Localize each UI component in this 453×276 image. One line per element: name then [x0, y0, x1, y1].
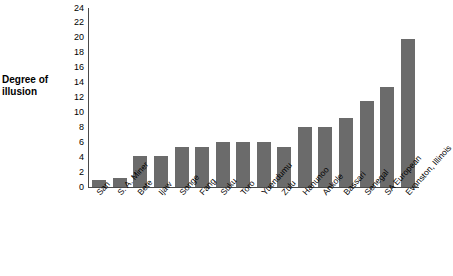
bar-slot [110, 8, 131, 187]
bar-slot [254, 8, 275, 187]
y-axis-tick-label: 16 [60, 63, 84, 72]
y-axis-tick-labels: 242220181614121086420 [58, 0, 84, 276]
bar-slot [171, 8, 192, 187]
y-axis-tick-label: 10 [60, 108, 84, 117]
y-axis-title-line-1: Degree of [2, 74, 62, 86]
y-axis-tick-label: 24 [60, 4, 84, 13]
y-axis-tick-label: 6 [60, 138, 84, 147]
bar-slot [295, 8, 316, 187]
bar-slot [192, 8, 213, 187]
y-axis-tick-label: 4 [60, 153, 84, 162]
y-axis-tick-label: 20 [60, 33, 84, 42]
y-axis-tick-label: 0 [60, 183, 84, 192]
bar-slot [315, 8, 336, 187]
bar-slot [274, 8, 295, 187]
bar-slot [130, 8, 151, 187]
y-axis-tick-label: 12 [60, 93, 84, 102]
bar-slot [151, 8, 172, 187]
y-axis-tick-label: 22 [60, 18, 84, 27]
bar-slot [212, 8, 233, 187]
bar-series [89, 8, 418, 187]
bar-slot [377, 8, 398, 187]
bar-slot [89, 8, 110, 187]
bar-slot [356, 8, 377, 187]
y-axis-tick-label: 2 [60, 168, 84, 177]
y-axis-title-line-2: illusion [2, 86, 62, 98]
bar-slot [336, 8, 357, 187]
x-axis-tick-labels: SanS. A. MinerBeteIjawSongeFangSukuToroY… [89, 189, 418, 276]
y-axis-title: Degree of illusion [2, 74, 62, 98]
y-axis-tick-label: 14 [60, 78, 84, 87]
y-axis-tick-label: 18 [60, 48, 84, 57]
bar-slot [233, 8, 254, 187]
y-axis-tick-label: 8 [60, 123, 84, 132]
